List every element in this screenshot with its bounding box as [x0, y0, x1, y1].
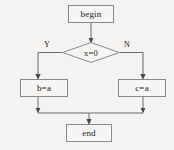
node-decision-label-wrap: x=0 — [62, 42, 120, 63]
node-end-label: end — [82, 129, 96, 138]
flowchart-diagram: begin x=0 Y N b=a c=a end — [0, 0, 174, 150]
edge-label-yes: Y — [44, 41, 50, 49]
edge-decision-no-to-right-action — [120, 53, 143, 78]
node-left-action-label: b=a — [37, 84, 51, 93]
node-begin-label: begin — [81, 10, 102, 19]
node-begin: begin — [68, 5, 114, 23]
node-decision-label: x=0 — [84, 48, 98, 58]
node-left-action: b=a — [20, 79, 68, 97]
node-end: end — [66, 124, 112, 142]
edge-label-no: N — [124, 41, 130, 49]
node-right-action: c=a — [118, 79, 166, 97]
node-decision: x=0 — [62, 42, 120, 63]
edge-decision-yes-to-left-action — [38, 53, 62, 78]
node-right-action-label: c=a — [135, 84, 149, 93]
